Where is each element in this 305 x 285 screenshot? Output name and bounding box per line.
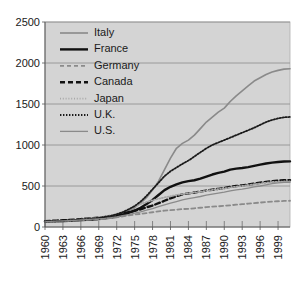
y-axis-tick-label: 0 <box>34 221 40 233</box>
x-axis-tick-label: 1966 <box>75 235 87 259</box>
legend-label-france: France <box>94 42 128 54</box>
x-axis-tick-label: 1978 <box>147 235 159 259</box>
x-axis-tick-label: 1993 <box>236 235 248 259</box>
x-axis-tick-label: 1960 <box>39 235 51 259</box>
legend-label-uk: U.K. <box>94 108 115 120</box>
x-axis-tick-label: 1984 <box>182 235 194 259</box>
x-axis-tick-label: 1963 <box>57 235 69 259</box>
x-axis-tick-label: 1969 <box>93 235 105 259</box>
y-axis-tick-label: 2000 <box>16 57 40 69</box>
legend-label-germany: Germany <box>94 59 140 71</box>
chart-canvas: 05001000150020002500 1960196319661969197… <box>0 0 305 285</box>
legend-label-canada: Canada <box>94 75 133 87</box>
y-axis-tick-label: 500 <box>22 180 40 192</box>
x-axis-tick-label: 1987 <box>200 235 212 259</box>
line-chart: 05001000150020002500 1960196319661969197… <box>0 0 305 285</box>
y-axis-tick-label: 2500 <box>16 16 40 28</box>
x-axis-tick-label: 1999 <box>272 235 284 259</box>
y-axis-labels-group: 05001000150020002500 <box>16 16 45 233</box>
legend-label-italy: Italy <box>94 26 115 38</box>
x-axis-tick-label: 1975 <box>129 235 141 259</box>
legend-label-us: U.S. <box>94 124 115 136</box>
x-axis-tick-label: 1996 <box>254 235 266 259</box>
x-axis-tick-label: 1990 <box>218 235 230 259</box>
x-axis-labels-group: 1960196319661969197219751978198119841987… <box>39 235 284 259</box>
x-axis-tick-label: 1972 <box>111 235 123 259</box>
y-axis-tick-label: 1500 <box>16 98 40 110</box>
legend-label-japan: Japan <box>94 92 124 104</box>
y-axis-tick-label: 1000 <box>16 139 40 151</box>
x-axis-tick-label: 1981 <box>164 235 176 259</box>
